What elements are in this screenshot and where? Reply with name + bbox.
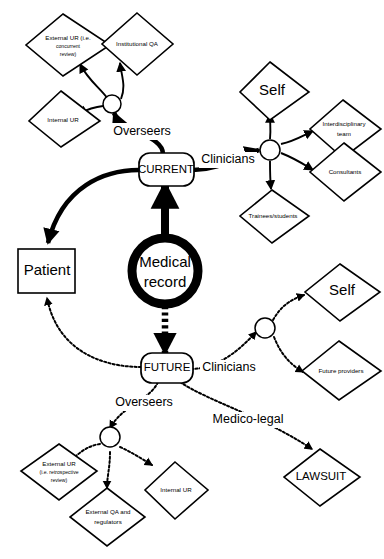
edge-label-clinicians-top-text: Clinicians (201, 152, 255, 166)
edge-overseers-bottom-to-internal-ur-bottom (120, 447, 152, 465)
node-future-state-label: FUTURE (144, 361, 191, 373)
hub-clinicians-bottom (255, 318, 275, 338)
node-lawsuit-label: LAWSUIT (296, 470, 347, 482)
node-external-ur-concurrent-line2: concurrent (56, 43, 81, 49)
node-lawsuit[interactable]: LAWSUIT (284, 449, 360, 506)
edge-label-overseers-bottom-text: Overseers (115, 395, 173, 409)
edge-overseers-to-external-ur-concurrent (80, 64, 108, 99)
node-institutional-qa[interactable]: Institutional QA (102, 13, 173, 75)
node-patient[interactable]: Patient (18, 249, 75, 293)
node-current-state[interactable]: CURRENT (138, 153, 194, 186)
edge-overseers-bottom-to-external-qa-regulators (107, 452, 110, 488)
edge-label-clinicians-bottom: Clinicians (200, 360, 258, 376)
hub-clinicians-top (260, 140, 280, 160)
node-internal-ur-top[interactable]: Internal UR (29, 91, 100, 147)
node-self-bottom-label: Self (329, 281, 356, 298)
edge-future-to-patient (47, 298, 141, 367)
edge-label-overseers-top: Overseers (104, 123, 180, 140)
node-current-state-label: CURRENT (138, 163, 194, 175)
node-consultants-label: Consultants (329, 168, 362, 175)
node-external-ur-retrospective[interactable]: External UR (i.e. retrospective review) (21, 444, 97, 500)
node-external-ur-retrospective-line1: External UR (42, 460, 76, 467)
node-trainees-students[interactable]: Trainees/students (240, 190, 309, 243)
edge-label-medico-legal-text: Medico-legal (213, 412, 284, 426)
node-medical-record-line2: record (144, 273, 187, 290)
node-self-bottom[interactable]: Self (305, 264, 380, 321)
edge-clinicians-to-trainees-students (270, 161, 271, 189)
node-medical-record-line1: Medical (139, 253, 191, 270)
hub-overseers-bottom (100, 427, 120, 447)
edge-clinicians-to-interdisciplinary-team (281, 131, 313, 144)
node-internal-ur-bottom-label: Internal UR (160, 486, 192, 493)
node-medical-record[interactable]: Medical record (132, 238, 198, 304)
node-future-providers[interactable]: Future providers (302, 341, 381, 400)
node-patient-label: Patient (24, 261, 72, 278)
node-external-qa-regulators[interactable]: External QA and regulators (70, 488, 145, 546)
node-external-qa-regulators-line1: External QA and (85, 508, 131, 515)
node-external-ur-concurrent[interactable]: External UR (i.e. concurrent review) (26, 14, 110, 76)
edge-overseers-to-institutional-qa (120, 63, 123, 99)
node-consultants[interactable]: Consultants (310, 143, 381, 201)
hub-overseers-top (103, 95, 121, 113)
node-external-ur-retrospective-line2: (i.e. retrospective (39, 469, 78, 475)
node-interdisciplinary-team-line1: Interdisciplinary (323, 120, 367, 127)
edge-label-medico-legal: Medico-legal (207, 412, 290, 428)
edge-label-clinicians-bottom-text: Clinicians (202, 360, 256, 374)
edge-clinicians-bottom-to-self (273, 295, 304, 320)
node-external-ur-concurrent-line3: review) (60, 51, 77, 57)
node-future-providers-label: Future providers (318, 367, 363, 374)
edge-label-overseers-bottom: Overseers (110, 395, 178, 411)
node-external-qa-regulators-line2: regulators (94, 518, 122, 525)
edge-current-to-patient (48, 170, 139, 243)
node-self-top[interactable]: Self (240, 62, 309, 120)
node-internal-ur-top-label: Internal UR (47, 116, 79, 123)
node-internal-ur-bottom[interactable]: Internal UR (145, 462, 208, 519)
edge-clinicians-to-consultants (281, 153, 313, 170)
node-self-top-label: Self (259, 81, 286, 98)
edge-clinicians-bottom-to-future-providers (274, 337, 303, 372)
node-trainees-students-label: Trainees/students (249, 212, 298, 219)
edge-label-overseers-top-text: Overseers (113, 124, 171, 138)
edge-label-clinicians-top: Clinicians (199, 152, 257, 168)
node-future-state[interactable]: FUTURE (141, 353, 193, 383)
node-interdisciplinary-team-line2: team (337, 130, 351, 137)
diagram-canvas: External UR (i.e. concurrent review) Ins… (0, 0, 384, 559)
node-institutional-qa-label: Institutional QA (116, 40, 159, 47)
node-external-ur-retrospective-line3: review) (51, 477, 68, 483)
node-external-ur-concurrent-line1: External UR (i.e. (45, 34, 91, 41)
medical-record-flow-diagram: External UR (i.e. concurrent review) Ins… (0, 0, 384, 559)
